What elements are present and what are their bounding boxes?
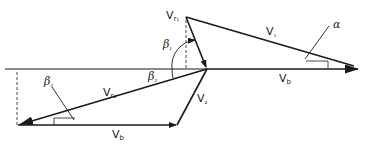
- alpha-leader-line: [305, 26, 329, 59]
- velocity-triangle-diagram: [0, 0, 370, 146]
- beta2-leader-line: [52, 87, 74, 120]
- vr1-vector: [186, 17, 206, 67]
- label-v1: V₁: [266, 26, 276, 39]
- label-beta2-upper: β₂: [148, 71, 157, 84]
- label-vr1: Vr₁: [166, 10, 179, 23]
- label-v2: V₂: [197, 93, 207, 106]
- label-vb-upper: Vb: [279, 73, 291, 86]
- label-beta1: β₁: [163, 39, 172, 52]
- beta2-upper-arc: [172, 69, 173, 78]
- label-vr2: Vr₂: [103, 87, 116, 100]
- alpha-angle-arc: [306, 61, 328, 68]
- beta2-angle-arc: [54, 118, 75, 125]
- beta1-arc: [172, 40, 195, 69]
- label-vb-lower: Vb: [112, 129, 124, 142]
- label-alpha: α: [333, 19, 340, 30]
- label-beta2-lower: β₂: [44, 76, 53, 89]
